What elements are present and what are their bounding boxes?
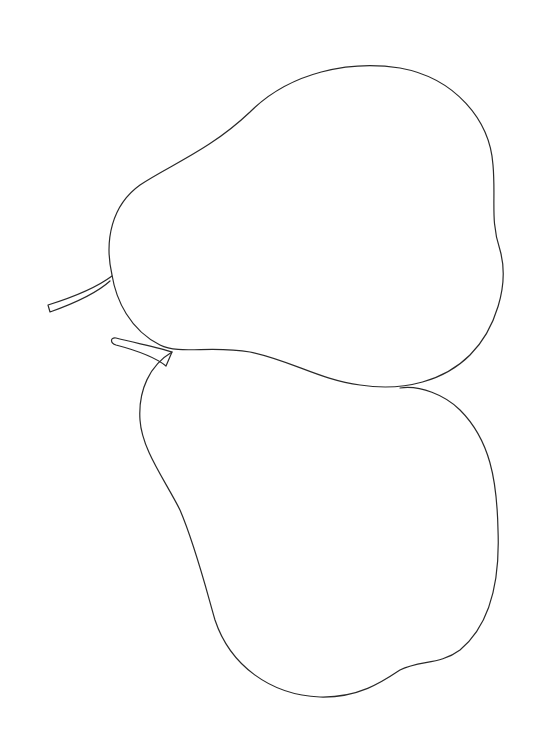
lower-pear-stem bbox=[112, 338, 173, 366]
lower-pear-outline bbox=[140, 352, 498, 697]
upper-pear-outline bbox=[109, 66, 503, 387]
pears-drawing bbox=[0, 0, 555, 747]
upper-pear-stem bbox=[48, 276, 112, 312]
